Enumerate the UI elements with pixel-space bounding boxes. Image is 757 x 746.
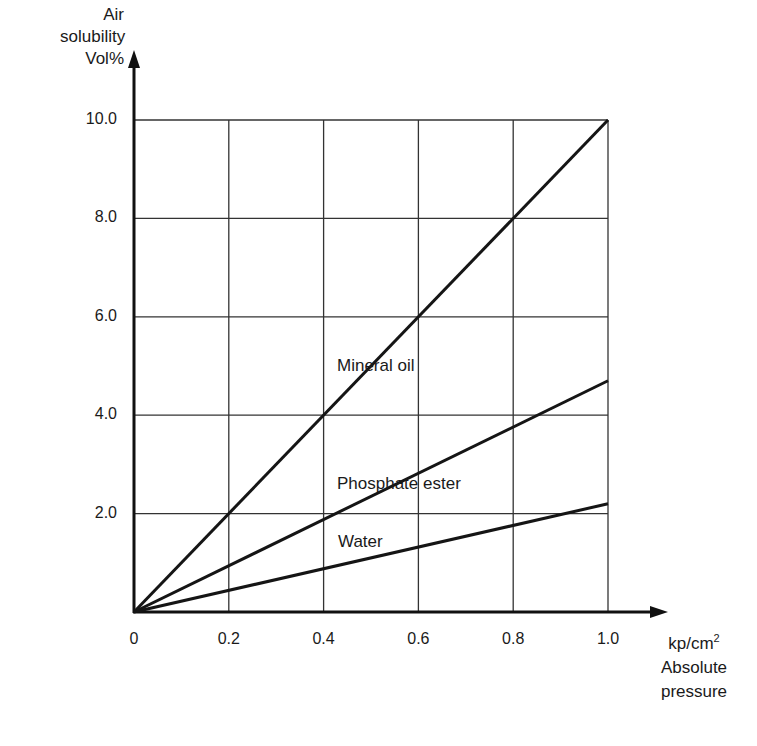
x-axis-label-line2: Absolute [640,656,748,680]
y-axis-label-line2: solubility [60,26,124,48]
y-axis-label-line3: Vol% [60,48,124,70]
y-tick-label: 2.0 [57,504,117,522]
x-tick-label: 0.8 [493,630,533,648]
y-tick-label: 6.0 [57,307,117,325]
series-label-mineral-oil: Mineral oil [337,356,414,376]
x-axis-arrow-icon [650,606,668,618]
x-tick-label: 1.0 [588,630,628,648]
y-axis-arrow-icon [128,50,140,68]
y-tick-label: 4.0 [57,405,117,423]
y-axis-label: Air solubility Vol% [60,4,124,70]
y-tick-label: 8.0 [57,208,117,226]
y-axis-label-line1: Air [60,4,124,26]
x-tick-label: 0.4 [304,630,344,648]
x-tick-label: 0.6 [398,630,438,648]
x-tick-label: 0.2 [209,630,249,648]
series-line-water [134,504,608,612]
series-label-phosphate-ester: Phosphate ester [337,474,461,494]
x-axis-label: kp/cm2 Absolute pressure [640,626,748,704]
series-label-water: Water [338,532,383,552]
y-tick-label: 10.0 [57,110,117,128]
x-tick-label: 0 [114,630,154,648]
x-axis-label-line3: pressure [640,680,748,704]
x-axis-unit: kp/cm2 [640,626,748,656]
